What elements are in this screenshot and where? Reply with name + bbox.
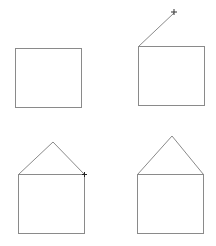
panel-3-house-with-cursor (19, 142, 88, 234)
crosshair-cursor-icon (171, 9, 177, 15)
panel-1-square (16, 49, 82, 108)
panel-2-square-with-line (139, 9, 205, 106)
panel-4-complete-house (138, 136, 204, 234)
house-drawing-steps-diagram (0, 0, 216, 246)
